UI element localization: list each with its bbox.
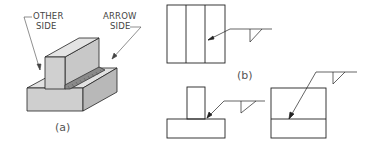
isometric-tee-joint [27, 38, 117, 111]
side-view [271, 88, 326, 138]
top-view [167, 5, 225, 63]
caption-b: (b) [237, 69, 253, 82]
arrow-side-leader [112, 27, 141, 59]
front-view [167, 87, 225, 138]
other-side-label-line2: SIDE [36, 22, 57, 31]
weld-symbol-front [207, 101, 265, 118]
arrow-side-label-line1: ARROW [103, 12, 137, 21]
other-side-label-line1: OTHER [33, 12, 64, 21]
weld-symbol-top [208, 29, 272, 42]
arrow-side-label-line2: SIDE [110, 22, 131, 31]
caption-a: (a) [55, 121, 70, 134]
weld-symbol-side [289, 72, 357, 119]
